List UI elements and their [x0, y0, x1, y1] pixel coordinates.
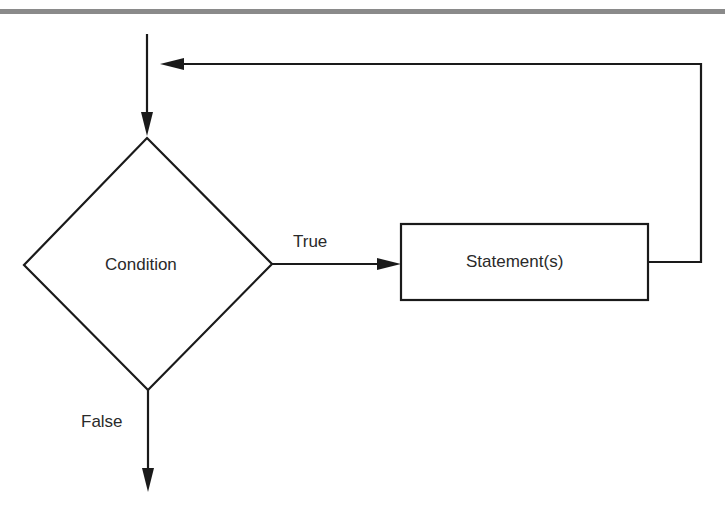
condition-label: Condition — [105, 255, 177, 275]
statements-label: Statement(s) — [466, 252, 563, 272]
false-arrow — [142, 390, 154, 492]
true-edge-label: True — [293, 232, 327, 252]
entry-arrow — [141, 34, 153, 136]
false-edge-label: False — [81, 412, 123, 432]
true-arrow — [272, 258, 401, 270]
